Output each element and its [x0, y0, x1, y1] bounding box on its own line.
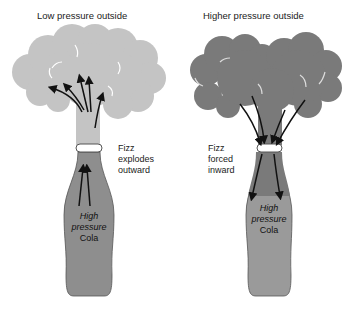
bottle-label-line: High — [239, 203, 299, 214]
bottle-label-left: High pressure Cola — [59, 211, 119, 244]
fizz-cloud-right — [190, 32, 342, 145]
label-line: outward — [118, 165, 154, 176]
bottle-label-line: pressure — [239, 214, 299, 225]
title-low-pressure: Low pressure outside — [37, 10, 127, 21]
bottle-label-line: Cola — [59, 233, 119, 244]
label-line: forced — [208, 154, 235, 165]
bottle-label-right: High pressure Cola — [239, 203, 299, 236]
bottle-label-line: pressure — [59, 222, 119, 233]
diagram-canvas — [0, 0, 346, 312]
label-fizz-forced: Fizz forced inward — [208, 143, 235, 176]
bottle-label-line: Cola — [239, 225, 299, 236]
label-line: Fizz — [118, 143, 154, 154]
label-line: explodes — [118, 154, 154, 165]
label-fizz-explodes: Fizz explodes outward — [118, 143, 154, 176]
label-line: Fizz — [208, 143, 235, 154]
title-higher-pressure: Higher pressure outside — [203, 10, 304, 21]
bottle-label-line: High — [59, 211, 119, 222]
label-line: inward — [208, 165, 235, 176]
